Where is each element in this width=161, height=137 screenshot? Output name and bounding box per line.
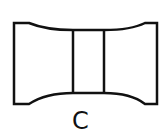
figure-label: C (0, 107, 161, 135)
outline-shape (14, 23, 157, 104)
